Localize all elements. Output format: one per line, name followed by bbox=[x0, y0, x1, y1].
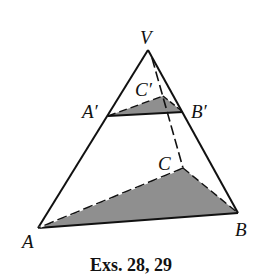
figure-caption: Exs. 28, 29 bbox=[90, 255, 172, 275]
label-b: B bbox=[235, 219, 247, 240]
label-c-prime: C′ bbox=[135, 79, 153, 100]
shaded-section-abc bbox=[38, 168, 238, 228]
label-v: V bbox=[140, 27, 154, 48]
label-a-prime: A′ bbox=[80, 101, 99, 122]
pyramid-diagram: V C′ A′ B′ C A B Exs. 28, 29 bbox=[0, 0, 263, 279]
label-a: A bbox=[20, 231, 34, 252]
label-b-prime: B′ bbox=[191, 101, 208, 122]
label-c: C bbox=[158, 153, 171, 174]
